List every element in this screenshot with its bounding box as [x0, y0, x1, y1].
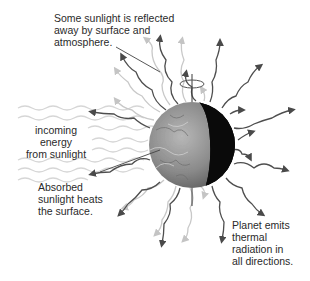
label-thermal-emission: Planet emits thermal radiation in all di… — [232, 219, 293, 267]
label-reflected-sunlight: Some sunlight is reflected away by surfa… — [54, 12, 174, 48]
label-incoming-energy: incoming energy from sunlight — [22, 124, 90, 160]
energy-balance-diagram: Some sunlight is reflected away by surfa… — [0, 0, 310, 281]
label-absorbed-sunlight: Absorbed sunlight heats the surface. — [38, 181, 103, 217]
